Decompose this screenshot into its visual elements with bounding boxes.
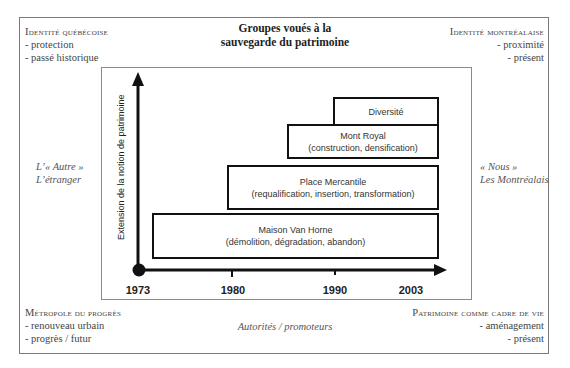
origin-dot-icon (133, 264, 146, 277)
box-place-mercantile: Place Mercantile (requalification, inser… (227, 165, 439, 210)
box-mont-royal: Mont Royal (construction, densification) (287, 124, 439, 159)
box-title: Diversité (368, 106, 403, 118)
x-tick-label: 1990 (315, 284, 355, 296)
box-title: Place Mercantile (300, 176, 367, 188)
box-title: Maison Van Horne (259, 224, 333, 236)
y-axis-arrow-icon (132, 72, 144, 86)
box-diversite: Diversité (333, 97, 439, 126)
box-detail: (construction, densification) (308, 142, 418, 154)
y-axis-label: Extension de la notion de patrimoine (116, 94, 126, 240)
box-title: Mont Royal (340, 130, 386, 142)
box-detail: (démolition, dégradation, abandon) (226, 236, 366, 248)
x-tick-label: 1980 (213, 284, 253, 296)
box-detail: (requalification, insertion, transformat… (251, 188, 414, 200)
x-tick-label: 2003 (391, 284, 431, 296)
x-tick-label: 1973 (118, 284, 158, 296)
x-axis-arrow-icon (434, 264, 447, 276)
box-maison-van-horne: Maison Van Horne (démolition, dégradatio… (152, 213, 439, 259)
